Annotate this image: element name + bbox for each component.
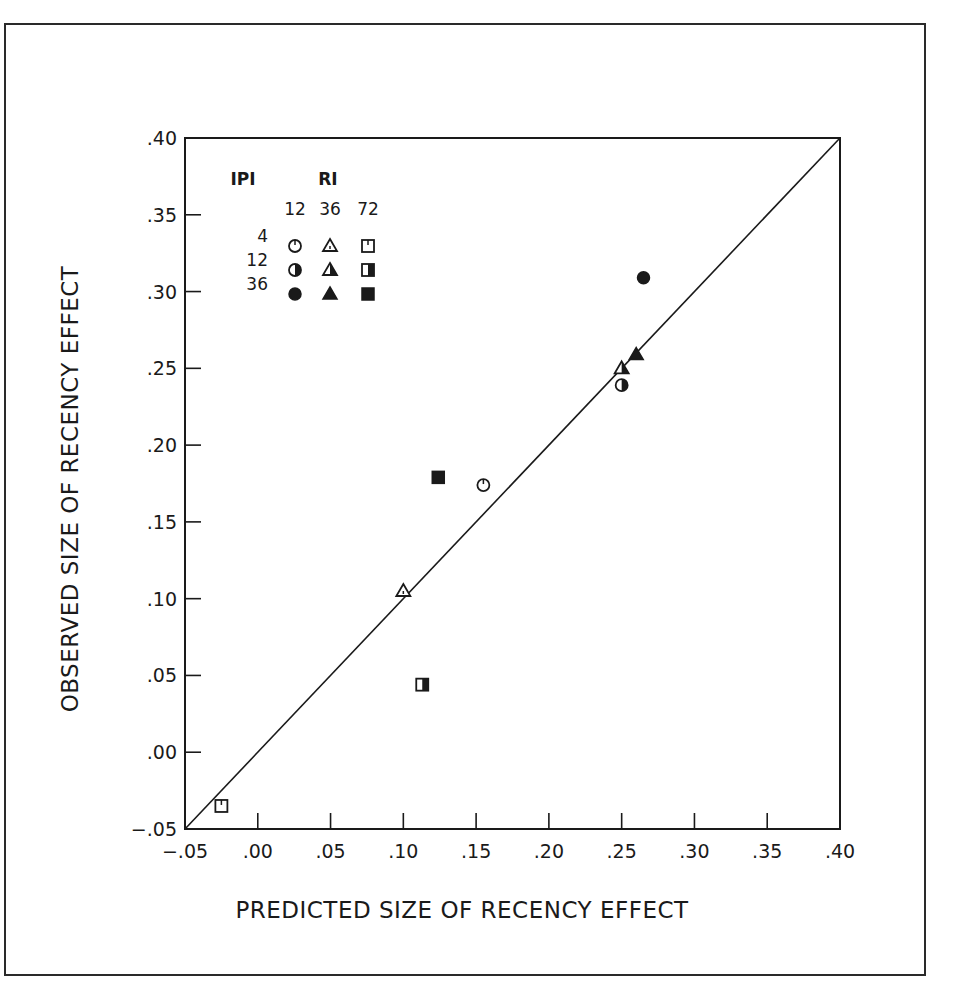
y-tick-label: .00 <box>147 741 177 763</box>
data-point <box>432 471 444 483</box>
data-point <box>215 800 227 812</box>
x-axis-title: PREDICTED SIZE OF RECENCY EFFECT <box>235 897 689 923</box>
x-tick-label: −.05 <box>162 840 208 862</box>
data-point <box>477 479 489 491</box>
legend-marker <box>323 287 337 299</box>
legend: IPIRI12367241236 <box>230 169 378 300</box>
marker-shape <box>362 288 374 300</box>
data-point <box>416 677 430 693</box>
y-axis: −.05.00.05.10.15.20.25.30.35.40 <box>131 127 201 840</box>
legend-marker <box>323 239 337 251</box>
y-tick-label: .35 <box>147 204 177 226</box>
legend-marker <box>289 240 301 252</box>
marker-shape <box>638 272 650 284</box>
legend-row-label: 4 <box>257 226 268 246</box>
legend-col-label: 12 <box>284 199 306 219</box>
legend-marker <box>362 262 376 278</box>
y-tick-label: .30 <box>147 281 177 303</box>
x-tick-label: .30 <box>679 840 709 862</box>
x-tick-label: .20 <box>534 840 564 862</box>
y-axis-title: OBSERVED SIZE OF RECENCY EFFECT <box>57 265 83 712</box>
y-tick-label: .20 <box>147 434 177 456</box>
x-tick-label: .35 <box>752 840 782 862</box>
y-tick-label: .15 <box>147 511 177 533</box>
x-tick-label: .10 <box>388 840 418 862</box>
plot-area <box>185 138 840 829</box>
y-tick-label: −.05 <box>131 818 177 840</box>
marker-shape <box>432 471 444 483</box>
legend-row-header: IPI <box>230 169 255 189</box>
legend-row-label: 36 <box>246 274 268 294</box>
identity-line <box>185 138 840 829</box>
x-axis: −.05.00.05.10.15.20.25.30.35.40 <box>162 813 855 862</box>
y-tick-label: .10 <box>147 588 177 610</box>
data-point <box>629 348 643 360</box>
legend-marker <box>289 262 303 278</box>
y-tick-label: .40 <box>147 127 177 149</box>
data-points <box>215 272 649 812</box>
x-tick-label: .40 <box>825 840 855 862</box>
data-point <box>396 584 410 596</box>
legend-col-header: RI <box>318 169 337 189</box>
y-tick-label: .05 <box>147 664 177 686</box>
marker-shape <box>629 348 643 360</box>
legend-col-label: 36 <box>319 199 341 219</box>
scatter-chart: −.05.00.05.10.15.20.25.30.35.40 −.05.00.… <box>0 0 954 1001</box>
marker-shape <box>289 288 301 300</box>
legend-marker <box>362 240 374 252</box>
legend-marker <box>289 288 301 300</box>
marker-shape <box>323 287 337 299</box>
data-point <box>616 377 630 393</box>
marker-shape <box>323 239 337 251</box>
legend-row-label: 12 <box>246 250 268 270</box>
data-point <box>638 272 650 284</box>
legend-marker <box>323 262 338 278</box>
legend-marker <box>362 288 374 300</box>
x-tick-label: .05 <box>315 840 345 862</box>
y-tick-label: .25 <box>147 357 177 379</box>
x-tick-label: .00 <box>243 840 273 862</box>
legend-col-label: 72 <box>357 199 379 219</box>
marker-shape <box>396 584 410 596</box>
x-tick-label: .25 <box>607 840 637 862</box>
x-tick-label: .15 <box>461 840 491 862</box>
